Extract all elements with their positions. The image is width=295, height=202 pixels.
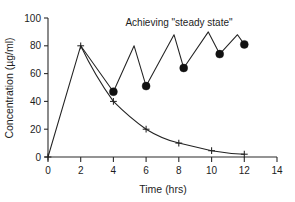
trough-marker-4 [216,50,224,58]
y-tick-label-20: 20 [30,124,42,135]
axes-group [48,18,277,157]
steady-state-annotation: Achieving "steady state" [125,17,233,28]
x-axis-title: Time (hrs) [139,183,186,195]
y-tick-label-60: 60 [30,68,42,79]
x-axis-ticks: 0 2 4 6 8 10 12 14 [45,157,283,176]
x-tick-label-8: 8 [176,165,182,176]
marker-plus-t0 [45,154,52,161]
trough-marker-5 [240,40,248,48]
y-axis-title: Concentration (µg/ml) [3,37,15,138]
series-multi-dose-sawtooth [81,32,249,96]
x-tick-label-4: 4 [111,165,117,176]
trough-marker-1 [109,88,117,96]
decay-markers [45,42,248,160]
y-tick-label-40: 40 [30,96,42,107]
sawtooth-trough-markers [109,40,248,95]
trough-marker-3 [180,64,188,72]
sawtooth-path [81,32,245,92]
x-tick-label-6: 6 [143,165,149,176]
pharmacokinetics-chart: 0 20 40 60 80 100 0 2 4 6 8 10 12 14 [0,0,295,202]
y-axis-ticks: 0 20 40 60 80 100 [24,13,48,163]
trough-marker-2 [142,82,150,90]
marker-plus-t10 [208,147,215,154]
x-tick-label-2: 2 [78,165,84,176]
x-tick-label-12: 12 [239,165,251,176]
x-tick-label-0: 0 [45,165,51,176]
series-single-dose-decay [45,42,248,160]
y-tick-label-0: 0 [35,152,41,163]
x-tick-label-14: 14 [271,165,283,176]
decay-curve-path [48,46,244,157]
y-tick-label-100: 100 [24,13,41,24]
marker-plus-t8 [175,140,182,147]
marker-plus-t6 [143,126,150,133]
x-tick-label-10: 10 [206,165,218,176]
chart-canvas: 0 20 40 60 80 100 0 2 4 6 8 10 12 14 [0,0,295,202]
y-tick-label-80: 80 [30,40,42,51]
